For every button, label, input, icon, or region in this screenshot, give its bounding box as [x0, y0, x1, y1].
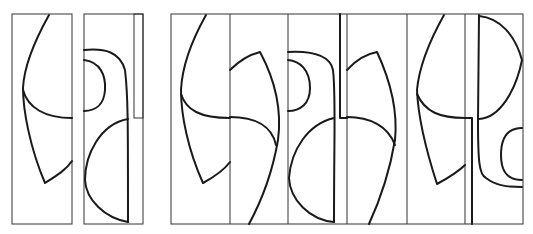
strip-panel-a — [12, 14, 72, 224]
strip-puzzle-figure — [0, 0, 533, 234]
strip-panel-b — [84, 14, 143, 224]
composite-panel-group — [171, 14, 523, 224]
